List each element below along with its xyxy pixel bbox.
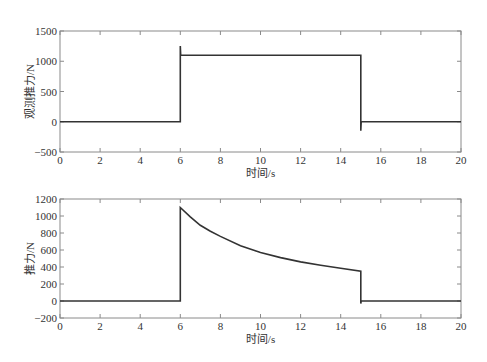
x-axis-label: 时间/s xyxy=(246,333,275,345)
x-tick-label: 16 xyxy=(375,320,387,332)
y-tick-label: 600 xyxy=(41,244,58,256)
y-axis-label: 推力/N xyxy=(23,242,36,275)
y-tick-label: 1200 xyxy=(35,193,58,205)
x-tick-label: 12 xyxy=(295,154,306,166)
x-tick-label: 2 xyxy=(97,154,103,166)
y-tick-label: 800 xyxy=(41,227,58,239)
x-tick-label: 6 xyxy=(178,154,184,166)
x-tick-label: 8 xyxy=(218,154,224,166)
figure: 02468101214161820−500050010001500时间/s观测推… xyxy=(0,0,487,362)
x-tick-label: 8 xyxy=(218,320,224,332)
x-tick-label: 10 xyxy=(255,320,267,332)
x-tick-label: 18 xyxy=(415,154,427,166)
x-tick-label: 14 xyxy=(335,154,347,166)
y-tick-label: 1000 xyxy=(35,55,58,67)
y-tick-label: 0 xyxy=(52,116,58,128)
y-tick-label: 1500 xyxy=(35,25,58,37)
bottom-subplot: 02468101214161820−2000200400600800100012… xyxy=(23,193,467,345)
y-tick-label: 0 xyxy=(52,295,58,307)
y-tick-label: 400 xyxy=(41,261,58,273)
x-tick-label: 20 xyxy=(456,320,468,332)
x-tick-label: 16 xyxy=(375,154,387,166)
x-tick-label: 0 xyxy=(57,154,63,166)
axes-box xyxy=(60,31,461,152)
top-subplot: 02468101214161820−500050010001500时间/s观测推… xyxy=(23,25,467,179)
x-tick-label: 2 xyxy=(97,320,103,332)
y-tick-label: −500 xyxy=(34,146,57,158)
x-tick-label: 12 xyxy=(295,320,306,332)
x-tick-label: 4 xyxy=(137,154,143,166)
y-tick-label: 500 xyxy=(41,86,58,98)
y-tick-label: 1000 xyxy=(35,210,58,222)
y-axis-label: 观测推力/N xyxy=(23,64,36,119)
x-tick-label: 4 xyxy=(137,320,143,332)
x-tick-label: 0 xyxy=(57,320,63,332)
axes-box xyxy=(60,199,461,318)
x-tick-label: 14 xyxy=(335,320,347,332)
y-tick-label: −200 xyxy=(34,312,57,324)
x-axis-label: 时间/s xyxy=(246,167,275,179)
x-tick-label: 20 xyxy=(456,154,468,166)
x-tick-label: 6 xyxy=(178,320,184,332)
figure-svg: 02468101214161820−500050010001500时间/s观测推… xyxy=(0,0,487,362)
x-tick-label: 10 xyxy=(255,154,267,166)
y-tick-label: 200 xyxy=(41,278,58,290)
data-line xyxy=(60,46,461,131)
x-tick-label: 18 xyxy=(415,320,427,332)
data-line xyxy=(60,208,461,304)
